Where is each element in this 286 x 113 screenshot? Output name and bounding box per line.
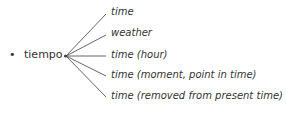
branch-label-weather: weather — [111, 27, 152, 38]
branch-label-moment: time (moment, point in time) — [111, 69, 257, 80]
branch-label-time: time — [111, 6, 134, 17]
branch-label-removed: time (removed from present time) — [111, 90, 283, 101]
branch-label-hour: time (hour) — [111, 49, 167, 60]
